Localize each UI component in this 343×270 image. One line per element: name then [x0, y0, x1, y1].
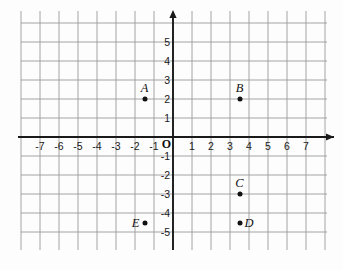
x-axis-tick-label: -6 — [54, 141, 63, 152]
x-axis-tick-label: 5 — [265, 141, 271, 152]
data-point-b — [237, 97, 242, 102]
y-axis-tick-label: 5 — [164, 37, 170, 48]
origin-label: O — [162, 138, 171, 150]
data-point-c — [237, 192, 242, 197]
y-axis-tick-label: 1 — [164, 113, 170, 124]
x-axis-tick-label: 1 — [189, 141, 195, 152]
point-label-a: A — [141, 82, 149, 95]
y-axis-tick-label: -5 — [161, 227, 170, 238]
y-axis-tick-label: 2 — [164, 94, 170, 105]
y-axis-tick-label: -1 — [161, 151, 170, 162]
point-label-d: D — [245, 216, 254, 229]
x-axis-tick-label: -4 — [92, 141, 101, 152]
x-axis-tick-label: 3 — [227, 141, 233, 152]
x-axis-tick-label: -2 — [130, 141, 139, 152]
x-axis-tick-label: 6 — [284, 141, 290, 152]
y-axis-tick-label: 4 — [164, 56, 170, 67]
grid-and-axes — [0, 0, 343, 270]
x-axis-tick-label: 2 — [208, 141, 214, 152]
coordinate-plane: -7-6-5-4-3-2-1123456754321-1-2-3-4-5OABC… — [0, 0, 343, 270]
y-axis-tick-label: -2 — [161, 170, 170, 181]
x-axis-arrow-icon — [326, 133, 334, 140]
x-axis-tick-label: 7 — [303, 141, 309, 152]
x-axis-tick-label: 4 — [246, 141, 252, 152]
data-point-d — [237, 220, 242, 225]
data-point-e — [142, 220, 147, 225]
y-axis-arrow-icon — [169, 10, 176, 18]
data-point-a — [142, 97, 147, 102]
y-axis-tick-label: -3 — [161, 189, 170, 200]
point-label-c: C — [235, 177, 243, 190]
x-axis-tick-label: -7 — [35, 141, 44, 152]
point-label-e: E — [132, 216, 140, 229]
y-axis-tick-label: 3 — [164, 75, 170, 86]
x-axis-tick-label: -5 — [73, 141, 82, 152]
y-axis-tick-label: -4 — [161, 208, 170, 219]
x-axis-tick-label: -3 — [111, 141, 120, 152]
x-axis-tick-label: -1 — [149, 141, 158, 152]
point-label-b: B — [236, 82, 244, 95]
